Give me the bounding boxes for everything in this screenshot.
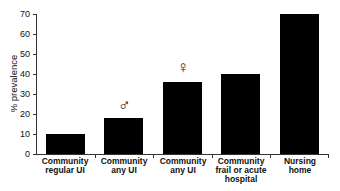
male-symbol-icon: ♂ — [109, 97, 139, 114]
bar-community-any-ui-female — [163, 82, 202, 154]
y-tick-label: 60 — [8, 29, 30, 39]
y-tick — [33, 54, 37, 55]
x-category-label: Community any UI — [153, 157, 213, 175]
y-tick-label: 40 — [8, 69, 30, 79]
female-symbol-icon: ♀ — [168, 59, 198, 76]
y-tick — [33, 134, 37, 135]
x-category-label: Community any UI — [94, 157, 154, 175]
bar-community-frail-acute-hospital — [221, 74, 260, 154]
x-category-label: Nursing home — [270, 157, 330, 175]
y-tick — [33, 94, 37, 95]
x-axis-line — [36, 154, 328, 155]
y-tick — [33, 74, 37, 75]
y-tick-label: 70 — [8, 9, 30, 19]
x-category-label: Community frail or acute hospital — [211, 157, 271, 184]
y-tick-label: 30 — [8, 89, 30, 99]
y-tick — [33, 14, 37, 15]
y-tick-label: 20 — [8, 109, 30, 119]
bar-community-any-ui-male — [104, 118, 143, 154]
y-tick — [33, 154, 37, 155]
y-tick-label: 50 — [8, 49, 30, 59]
y-axis-label: % prevalence — [8, 49, 19, 119]
y-tick-label: 0 — [8, 149, 30, 159]
bar-community-regular-ui — [46, 134, 85, 154]
y-tick — [33, 34, 37, 35]
y-tick — [33, 114, 37, 115]
y-tick-label: 10 — [8, 129, 30, 139]
bar-nursing-home — [280, 14, 319, 154]
x-category-label: Community regular UI — [35, 157, 95, 175]
